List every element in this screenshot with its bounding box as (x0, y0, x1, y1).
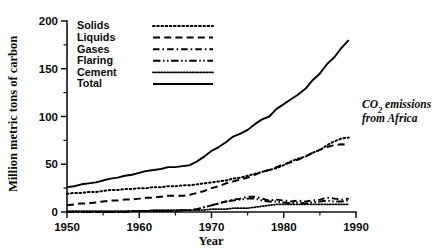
legend-label-liquids: Liquids (77, 31, 115, 43)
x-tick-label: 1960 (126, 221, 152, 233)
annotation-line-2: from Africa (362, 112, 418, 125)
x-tick-label: 1970 (199, 221, 225, 233)
x-tick-label: 1950 (54, 221, 80, 233)
y-tick-label: 0 (52, 206, 58, 218)
y-tick-marks (61, 21, 67, 212)
x-tick-label: 1980 (271, 221, 297, 233)
y-tick-label: 150 (39, 63, 58, 75)
co2-emissions-line-chart: 050100150200 19501960197019801990 Millio… (0, 0, 436, 252)
annotation-co-text: CO (362, 98, 378, 110)
chart-figure: 050100150200 19501960197019801990 Millio… (0, 0, 436, 252)
legend-label-total: Total (77, 77, 102, 89)
x-tick-labels: 19501960197019801990 (54, 221, 369, 233)
legend-label-cement: Cement (77, 66, 117, 78)
chart-annotation: CO2 emissions from Africa (362, 98, 432, 125)
y-tick-label: 200 (39, 15, 58, 27)
y-axis-title: Million metric tons of carbon (6, 36, 20, 192)
legend-label-flaring: Flaring (77, 54, 113, 66)
legend: SolidsLiquidsGasesFlaringCementTotal (77, 19, 213, 89)
legend-label-solids: Solids (77, 19, 109, 31)
y-tick-label: 100 (39, 111, 58, 123)
y-tick-label: 50 (45, 158, 58, 170)
annotation-emissions-text: emissions (382, 98, 431, 110)
x-axis-title: Year (199, 234, 224, 248)
x-tick-label: 1990 (343, 221, 369, 233)
y-tick-labels: 050100150200 (39, 15, 58, 218)
series-line-solids (67, 138, 349, 194)
legend-label-gases: Gases (77, 43, 109, 55)
